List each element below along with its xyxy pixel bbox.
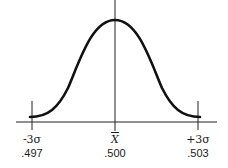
mean-value: .500 xyxy=(95,147,135,159)
mean-symbol: X xyxy=(95,134,135,146)
plus-3-sigma-label: +3σ xyxy=(178,134,218,146)
minus-3-sigma-label: -3σ xyxy=(12,134,52,146)
minus-3-sigma-value: .497 xyxy=(12,147,52,159)
plus-3-sigma-value: .503 xyxy=(178,147,218,159)
